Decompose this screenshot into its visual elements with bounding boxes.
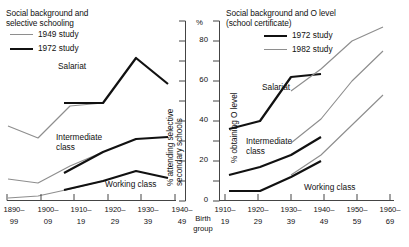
line-working-1982 [291,95,383,175]
figure-two-line-charts: Social background and selective schoolin… [0,0,409,247]
line-salariat-1982 [291,27,383,91]
percent-symbol: % [196,19,203,28]
right-y-axis-line-and-ticks [213,21,220,201]
left-y-axis-title-line1: % attending selective [166,109,175,186]
right-series-label-intermediate-line2: class [246,147,265,157]
right-y-axis-title: % obtaining O level [230,92,239,163]
right-x-tick-label-5-top: 1960– [369,206,409,215]
right-series-label-salariat: Salariat [262,83,290,93]
right-x-axis [219,194,394,201]
left-y-axis-title-line2: secondary schools [175,118,184,186]
right-x-tick-label-5-bottom: 69 [369,218,409,227]
right-series-label-working: Working class [304,183,356,193]
line-intermediate-1982 [291,51,383,143]
chart-panel-right: Social background and O level (school ce… [204,0,409,247]
